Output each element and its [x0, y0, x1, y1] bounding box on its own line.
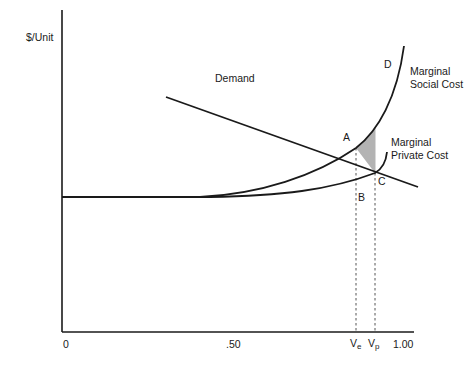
x-tick-ve: Ve — [350, 337, 361, 351]
point-d-label: D — [384, 58, 392, 70]
msc-label-line2: Social Cost — [410, 78, 463, 91]
msc-label-line1: Marginal — [410, 65, 463, 78]
x-tick-ve-main: V — [350, 337, 357, 349]
point-b-label: B — [358, 191, 365, 203]
x-tick-vp-sub: p — [375, 342, 379, 351]
msc-label: Marginal Social Cost — [410, 65, 463, 91]
y-axis-label: $/Unit — [26, 31, 53, 44]
x-tick-50: .50 — [226, 338, 241, 350]
mpc-label-line1: Marginal — [391, 136, 448, 149]
mpc-label-line2: Private Cost — [391, 149, 448, 162]
x-tick-ve-sub: e — [357, 342, 361, 351]
shade-overlay — [0, 0, 464, 367]
x-tick-100: 1.00 — [393, 338, 413, 350]
x-tick-vp-main: V — [368, 337, 375, 349]
x-tick-vp: Vp — [368, 337, 379, 351]
point-a-label: A — [343, 131, 350, 143]
mpc-label: Marginal Private Cost — [391, 136, 448, 162]
point-c-label: C — [378, 175, 386, 187]
demand-label: Demand — [215, 72, 255, 85]
x-tick-0: 0 — [63, 338, 69, 350]
